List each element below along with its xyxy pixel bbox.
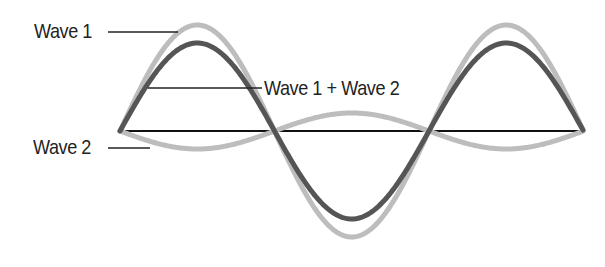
wave-sum-label: Wave 1 + Wave 2 bbox=[264, 76, 399, 100]
wave-1-label: Wave 1 bbox=[34, 19, 92, 43]
wave-2-label: Wave 2 bbox=[33, 135, 91, 159]
